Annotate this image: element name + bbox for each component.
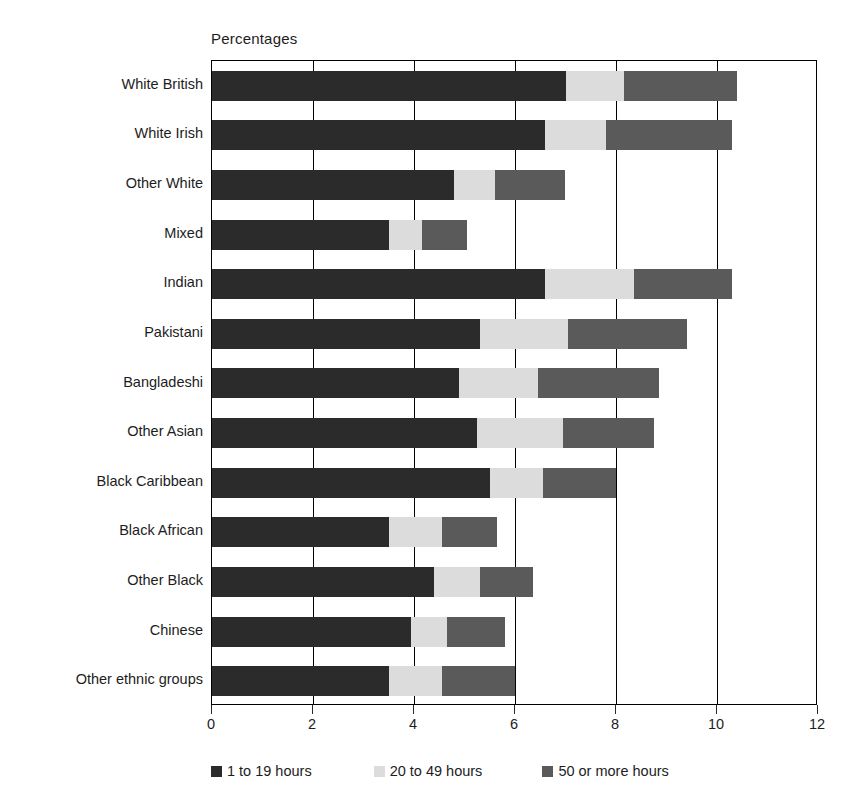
x-axis: 024681012 <box>211 705 817 745</box>
bar-row <box>212 111 816 161</box>
bar-segment[interactable] <box>634 269 732 299</box>
bar-segment[interactable] <box>538 368 659 398</box>
bar-row <box>212 607 816 657</box>
stacked-bar[interactable] <box>212 418 654 448</box>
legend-swatch-icon <box>211 766 222 777</box>
bar-row <box>212 259 816 309</box>
bar-segment[interactable] <box>442 666 515 696</box>
bar-segment[interactable] <box>212 567 434 597</box>
x-axis-tick-label: 12 <box>809 716 825 732</box>
bar-segment[interactable] <box>389 666 442 696</box>
category-label: Other White <box>3 175 203 191</box>
bar-segment[interactable] <box>545 120 606 150</box>
legend-item[interactable]: 20 to 49 hours <box>374 763 483 779</box>
legend-swatch-icon <box>542 766 553 777</box>
bar-segment[interactable] <box>563 418 654 448</box>
x-axis-tick-label: 10 <box>708 716 724 732</box>
legend-item[interactable]: 1 to 19 hours <box>211 763 312 779</box>
x-axis-tick-label: 8 <box>611 716 619 732</box>
stacked-bar[interactable] <box>212 269 732 299</box>
stacked-bar[interactable] <box>212 617 505 647</box>
stacked-bar[interactable] <box>212 468 616 498</box>
bar-segment[interactable] <box>545 269 633 299</box>
bar-segment[interactable] <box>212 418 477 448</box>
legend-label: 50 or more hours <box>558 763 668 779</box>
bar-segment[interactable] <box>480 319 568 349</box>
bar-row <box>212 508 816 558</box>
chart-legend: 1 to 19 hours20 to 49 hours50 or more ho… <box>211 757 817 785</box>
bar-row <box>212 458 816 508</box>
bar-segment[interactable] <box>422 220 467 250</box>
bar-row <box>212 61 816 111</box>
x-axis-tick <box>413 705 414 714</box>
legend-item[interactable]: 50 or more hours <box>542 763 668 779</box>
bar-segment[interactable] <box>212 468 490 498</box>
x-axis-tick-label: 2 <box>308 716 316 732</box>
x-axis-tick <box>615 705 616 714</box>
bar-segment[interactable] <box>434 567 479 597</box>
x-axis-tick-label: 4 <box>409 716 417 732</box>
stacked-bar[interactable] <box>212 517 497 547</box>
bar-segment[interactable] <box>477 418 563 448</box>
bar-segment[interactable] <box>454 170 494 200</box>
bar-segment[interactable] <box>411 617 446 647</box>
stacked-bar[interactable] <box>212 567 533 597</box>
bar-segment[interactable] <box>606 120 732 150</box>
category-label: Other Black <box>3 572 203 588</box>
bar-row <box>212 656 816 706</box>
bar-segment[interactable] <box>212 368 459 398</box>
stacked-bar[interactable] <box>212 319 687 349</box>
category-label: Bangladeshi <box>3 374 203 390</box>
bar-segment[interactable] <box>459 368 537 398</box>
category-label: Black African <box>3 522 203 538</box>
x-axis-tick-label: 0 <box>207 716 215 732</box>
bar-row <box>212 408 816 458</box>
stacked-bar[interactable] <box>212 71 737 101</box>
bar-segment[interactable] <box>566 71 624 101</box>
bar-segment[interactable] <box>389 517 442 547</box>
category-label: White Irish <box>3 125 203 141</box>
category-label: Other Asian <box>3 423 203 439</box>
bar-row <box>212 359 816 409</box>
category-label: Chinese <box>3 622 203 638</box>
stacked-bar[interactable] <box>212 368 659 398</box>
category-label: Indian <box>3 274 203 290</box>
bar-segment[interactable] <box>495 170 566 200</box>
stacked-bar[interactable] <box>212 170 565 200</box>
x-axis-tick <box>716 705 717 714</box>
x-axis-tick <box>514 705 515 714</box>
bar-row <box>212 160 816 210</box>
bar-segment[interactable] <box>389 220 422 250</box>
legend-label: 1 to 19 hours <box>227 763 312 779</box>
stacked-bar[interactable] <box>212 120 732 150</box>
x-axis-tick <box>817 705 818 714</box>
bar-segment[interactable] <box>212 269 545 299</box>
category-label: White British <box>3 76 203 92</box>
bar-row <box>212 210 816 260</box>
bar-segment[interactable] <box>212 170 454 200</box>
bar-segment[interactable] <box>490 468 543 498</box>
plot-area <box>211 60 817 705</box>
bar-segment[interactable] <box>212 71 566 101</box>
bar-segment[interactable] <box>568 319 687 349</box>
bar-segment[interactable] <box>212 617 411 647</box>
x-axis-tick-label: 6 <box>510 716 518 732</box>
bar-row <box>212 557 816 607</box>
bar-segment[interactable] <box>624 71 738 101</box>
bar-segment[interactable] <box>212 319 480 349</box>
category-label: Mixed <box>3 225 203 241</box>
x-axis-tick <box>211 705 212 714</box>
stacked-bar[interactable] <box>212 666 515 696</box>
category-axis-labels: White BritishWhite IrishOther WhiteMixed… <box>0 60 203 705</box>
bar-segment[interactable] <box>212 120 545 150</box>
legend-label: 20 to 49 hours <box>390 763 483 779</box>
stacked-bar[interactable] <box>212 220 467 250</box>
bar-segment[interactable] <box>543 468 616 498</box>
bar-segment[interactable] <box>447 617 505 647</box>
bar-segment[interactable] <box>212 666 389 696</box>
x-axis-tick <box>312 705 313 714</box>
bar-segment[interactable] <box>212 220 389 250</box>
bar-segment[interactable] <box>442 517 498 547</box>
bar-segment[interactable] <box>212 517 389 547</box>
bar-segment[interactable] <box>480 567 533 597</box>
